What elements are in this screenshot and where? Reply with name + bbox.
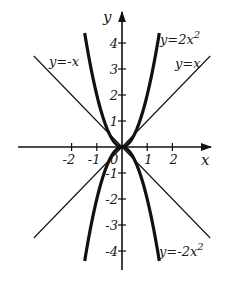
x-tick-label: 1 — [144, 152, 152, 167]
label-y-neg-2x2: y=-2x2 — [158, 241, 204, 259]
origin-label: 0 — [110, 152, 118, 167]
chart-svg: -2-1124321-1-2-3-4 y x 0 y=2x2 y=-2x2 y=… — [0, 0, 231, 284]
y-tick-label: 1 — [110, 114, 118, 129]
x-tick-label: -1 — [88, 152, 101, 167]
y-tick-label: -3 — [105, 218, 118, 233]
y-tick-label: -2 — [105, 192, 118, 207]
label-y-neg-x: y=-x — [48, 54, 80, 69]
chart-figure: -2-1124321-1-2-3-4 y x 0 y=2x2 y=-2x2 y=… — [0, 0, 231, 284]
y-tick-label: -4 — [105, 244, 118, 259]
y-tick-label: 4 — [109, 36, 118, 51]
y-tick-label: 2 — [109, 88, 118, 103]
label-y-x: y=x — [174, 56, 201, 71]
x-tick-label: 2 — [168, 152, 177, 167]
y-tick-label: 3 — [110, 62, 118, 77]
y-axis-label: y — [102, 8, 112, 26]
label-y-2x2: y=2x2 — [159, 29, 200, 47]
x-tick-label: -2 — [63, 152, 76, 167]
x-axis-label: x — [201, 151, 210, 169]
